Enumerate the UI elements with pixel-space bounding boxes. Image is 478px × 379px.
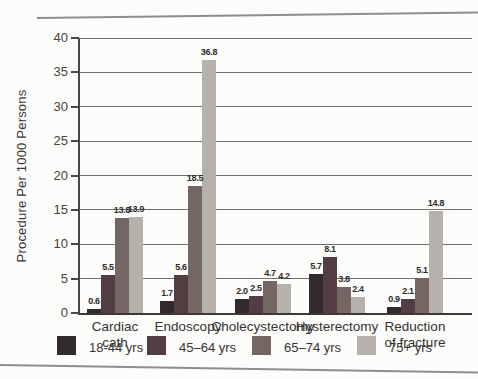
bar — [202, 60, 216, 313]
plot-area: 05101520253035400.61.72.05.70.95.55.62.5… — [78, 38, 472, 315]
legend-swatch — [357, 336, 376, 355]
gridline — [80, 38, 472, 39]
gridline — [80, 72, 472, 73]
legend-label: 18-44 yrs — [89, 337, 143, 355]
y-tick-mark — [71, 140, 79, 142]
y-tick-mark — [71, 106, 79, 108]
legend-swatch — [57, 336, 76, 355]
bar — [188, 186, 202, 313]
y-tick-mark — [71, 37, 79, 39]
bar — [101, 275, 115, 313]
y-tick-label: 30 — [36, 100, 68, 114]
legend-item: 75+ yrs — [357, 336, 432, 355]
bar-value-label: 5.5 — [91, 262, 125, 272]
bar-value-label: 14.8 — [419, 198, 453, 208]
y-tick-label: 20 — [36, 169, 68, 183]
bar-value-label: 3.8 — [327, 274, 361, 284]
scanned-bar-chart-figure: Procedure Per 1000 Persons 0510152025303… — [0, 0, 478, 379]
legend-swatch — [252, 336, 271, 355]
y-tick-label: 35 — [36, 65, 68, 79]
bar-value-label: 36.8 — [192, 47, 226, 57]
y-tick-label: 0 — [36, 306, 68, 320]
bar — [429, 211, 443, 313]
legend-item: 18-44 yrs — [57, 336, 143, 355]
bar-value-label: 1.7 — [150, 288, 184, 298]
y-tick-mark — [71, 312, 79, 314]
bar-value-label: 5.1 — [405, 265, 439, 275]
legend-label: 45–64 yrs — [179, 337, 236, 355]
bar — [387, 307, 401, 313]
bar-value-label: 18.5 — [178, 173, 212, 183]
bar-value-label: 4.2 — [267, 271, 301, 281]
bar-value-label: 2.4 — [341, 284, 375, 294]
y-tick-label: 40 — [36, 31, 68, 45]
bar — [351, 297, 365, 314]
legend: 18-44 yrs45–64 yrs65–74 yrs75+ yrs — [0, 336, 478, 360]
bar-value-label: 5.6 — [164, 262, 198, 272]
y-tick-label: 15 — [36, 203, 68, 217]
bar-value-label: 5.7 — [299, 261, 333, 271]
gridline — [80, 106, 472, 107]
y-tick-mark — [71, 278, 79, 280]
bar — [235, 299, 249, 313]
bar — [129, 217, 143, 313]
y-tick-label: 25 — [36, 134, 68, 148]
bar — [277, 284, 291, 313]
legend-label: 75+ yrs — [389, 337, 432, 355]
bar — [249, 296, 263, 313]
top-divider-rule — [37, 12, 478, 19]
bar-value-label: 2.5 — [239, 283, 273, 293]
gridline — [80, 175, 472, 176]
gridline — [80, 141, 472, 142]
bar-value-label: 13.9 — [119, 204, 153, 214]
y-tick-mark — [71, 175, 79, 177]
bottom-divider-rule — [0, 364, 478, 374]
legend-label: 65–74 yrs — [284, 337, 341, 355]
bar — [160, 301, 174, 313]
legend-swatch — [147, 336, 166, 355]
bar — [309, 274, 323, 313]
y-tick-mark — [71, 71, 79, 73]
bar — [87, 309, 101, 313]
bar-value-label: 0.6 — [77, 296, 111, 306]
bar-value-label: 2.1 — [391, 286, 425, 296]
bar-value-label: 8.1 — [313, 244, 347, 254]
y-tick-label: 10 — [36, 237, 68, 251]
y-axis-title: Procedure Per 1000 Persons — [14, 90, 29, 263]
legend-item: 65–74 yrs — [252, 336, 341, 355]
y-tick-mark — [71, 209, 79, 211]
y-tick-label: 5 — [36, 272, 68, 286]
y-tick-mark — [71, 243, 79, 245]
legend-item: 45–64 yrs — [147, 336, 236, 355]
